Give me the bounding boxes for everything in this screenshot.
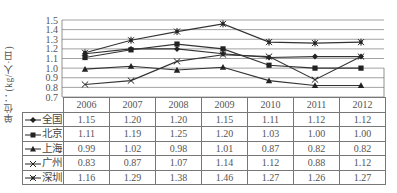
legend-entry: 北京 <box>23 127 64 142</box>
data-point-star-core <box>129 39 132 42</box>
table-row: 广州0.830.871.071.141.120.881.12 <box>23 156 386 171</box>
data-label: 1.27 <box>248 170 294 185</box>
legend-label: 北京 <box>42 128 62 139</box>
y-axis-label: 单位：(kg/人·日) <box>2 20 16 148</box>
data-label: 1.01 <box>202 141 248 156</box>
legend-label: 广州 <box>42 157 62 168</box>
table-row: 北京1.111.191.251.201.031.001.00 <box>23 127 386 142</box>
legend-marker-square-icon <box>25 130 41 140</box>
legend-label: 全国 <box>42 114 62 125</box>
data-label: 1.15 <box>64 112 110 127</box>
data-point-square <box>358 66 363 71</box>
data-table: 2006200720082009201020112012 全国1.151.201… <box>22 97 386 185</box>
data-label: 0.88 <box>294 156 340 171</box>
data-label: 1.02 <box>110 141 156 156</box>
table-row: 深圳1.161.291.381.461.271.261.27 <box>23 170 386 185</box>
legend-entry: 深圳 <box>23 170 64 185</box>
data-point-star-core <box>175 30 178 33</box>
legend-marker-star-icon <box>25 173 41 183</box>
x-tick-label: 2010 <box>248 98 294 113</box>
data-point-star-core <box>221 22 224 25</box>
legend-marker-x-icon <box>25 159 41 169</box>
y-tick-label: 1.5 <box>46 15 59 26</box>
data-point-square <box>266 63 271 68</box>
y-tick-label: 1.1 <box>46 53 59 64</box>
data-point-square <box>220 46 225 51</box>
y-tick-label: 1.2 <box>46 43 59 54</box>
data-label: 1.11 <box>64 127 110 142</box>
data-label: 1.15 <box>202 112 248 127</box>
data-label: 1.12 <box>294 112 340 127</box>
data-label: 1.20 <box>156 112 202 127</box>
data-label: 1.12 <box>248 156 294 171</box>
x-tick-label: 2009 <box>202 98 248 113</box>
data-point-star-core <box>313 42 316 45</box>
data-label: 1.29 <box>110 170 156 185</box>
legend-entry: 广州 <box>23 156 64 171</box>
data-label: 1.20 <box>202 127 248 142</box>
data-point-square <box>312 66 317 71</box>
data-label: 1.25 <box>156 127 202 142</box>
y-tick-label: 1.3 <box>46 34 59 45</box>
data-label: 1.20 <box>110 112 156 127</box>
x-tick-label: 2006 <box>64 98 110 113</box>
x-tick-label: 2008 <box>156 98 202 113</box>
data-label: 0.87 <box>248 141 294 156</box>
data-label: 1.46 <box>202 170 248 185</box>
data-label: 1.00 <box>294 127 340 142</box>
data-label: 1.27 <box>340 170 386 185</box>
data-label: 1.12 <box>340 112 386 127</box>
y-tick-label: 1.0 <box>46 63 59 74</box>
y-tick-label: 0.9 <box>46 72 59 83</box>
data-label: 0.83 <box>64 156 110 171</box>
data-label: 0.87 <box>110 156 156 171</box>
data-point-diamond <box>174 46 180 52</box>
table-row: 上海0.991.020.981.010.870.820.82 <box>23 141 386 156</box>
legend-entry: 上海 <box>23 141 64 156</box>
legend-label: 上海 <box>42 143 62 154</box>
data-label: 1.26 <box>294 170 340 185</box>
data-label: 0.82 <box>340 141 386 156</box>
legend-marker-triangle-icon <box>25 144 41 154</box>
table-row: 全国1.151.201.201.151.111.121.12 <box>23 112 386 127</box>
data-point-star-core <box>359 41 362 44</box>
data-label: 1.12 <box>340 156 386 171</box>
data-label: 0.98 <box>156 141 202 156</box>
data-label: 1.00 <box>340 127 386 142</box>
table-corner <box>23 98 64 113</box>
data-label: 1.11 <box>248 112 294 127</box>
legend-entry: 全国 <box>23 112 64 127</box>
x-tick-label: 2007 <box>110 98 156 113</box>
data-point-diamond <box>220 51 226 57</box>
data-label: 1.07 <box>156 156 202 171</box>
legend-marker-diamond-icon <box>25 115 41 125</box>
legend-label: 深圳 <box>42 172 62 183</box>
x-tick-label: 2011 <box>294 98 340 113</box>
data-label: 1.03 <box>248 127 294 142</box>
data-label: 1.14 <box>202 156 248 171</box>
table-header-row: 2006200720082009201020112012 <box>23 98 386 113</box>
data-label: 0.99 <box>64 141 110 156</box>
data-label: 1.19 <box>110 127 156 142</box>
data-label: 1.38 <box>156 170 202 185</box>
y-tick-label: 1.4 <box>46 24 59 35</box>
data-point-square <box>174 41 179 46</box>
data-point-star-core <box>267 41 270 44</box>
data-label: 0.82 <box>294 141 340 156</box>
data-label: 1.16 <box>64 170 110 185</box>
data-point-square <box>128 47 133 52</box>
data-point-star-core <box>83 51 86 54</box>
x-tick-label: 2012 <box>340 98 386 113</box>
y-tick-label: 0.8 <box>46 82 59 93</box>
